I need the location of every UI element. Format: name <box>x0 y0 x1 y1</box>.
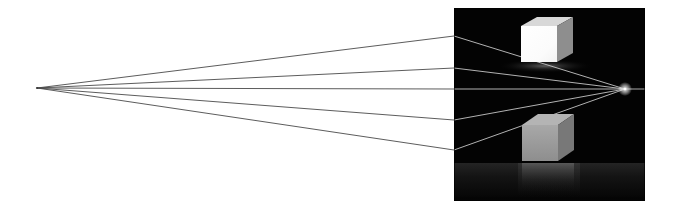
upper-cube-front-face <box>521 26 557 62</box>
right-vanishing-point <box>624 88 627 91</box>
render-panel <box>454 8 645 201</box>
perspective-figure <box>0 0 674 213</box>
figure-canvas <box>0 0 674 213</box>
left-vanishing-point <box>36 87 38 89</box>
upper-cube <box>521 17 573 62</box>
lower-cube-reflection <box>522 163 574 193</box>
lower-cube-front-face <box>522 125 558 161</box>
lower-cube <box>522 114 574 161</box>
